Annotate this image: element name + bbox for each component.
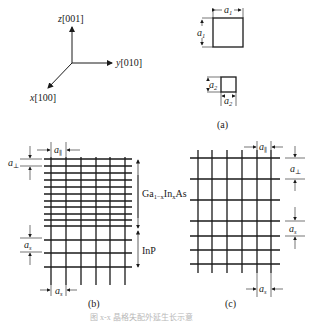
layer-label-inp: InP [142, 245, 156, 256]
cell-small-height-label: a2 [209, 79, 218, 91]
b-left-top-label: a⊥ [8, 157, 19, 169]
caption-c: (c) [225, 298, 236, 310]
lattice-mismatch-figure: z[001] y[010] x[100] a1 a1 a2 a2 (a) [0, 0, 311, 322]
y-axis-label: y[010] [115, 57, 142, 68]
c-bottom-label: as [259, 283, 267, 295]
b-bottom-label: as [55, 285, 63, 297]
lattice-grid-b [44, 157, 132, 285]
b-left-bottom-label: as [24, 239, 32, 251]
layer-label-gainas: Ga1−xInxAs [142, 188, 187, 200]
cell-large-width-label: a1 [224, 4, 232, 16]
figure-caption: 图 x-x 晶格失配外延生长示意 [90, 312, 193, 322]
c-right-bottom-label: as [289, 223, 297, 235]
lattice-grid-c [190, 150, 280, 273]
x-axis [48, 63, 72, 88]
unit-cell-large [202, 8, 243, 47]
dim-b-left-top [20, 146, 42, 180]
x-axis-label: x[100] [29, 92, 56, 103]
b-top-label: a∥ [54, 144, 62, 156]
caption-b: (b) [88, 298, 100, 310]
cell-small-width-label: a2 [224, 95, 233, 107]
z-axis-label: z[001] [57, 13, 84, 24]
c-top-label: a∥ [259, 141, 267, 153]
cell-large-height-label: a1 [197, 27, 205, 39]
coordinate-axes [48, 27, 112, 88]
c-right-top-label: a⊥ [290, 163, 301, 175]
caption-a: (a) [217, 119, 228, 131]
